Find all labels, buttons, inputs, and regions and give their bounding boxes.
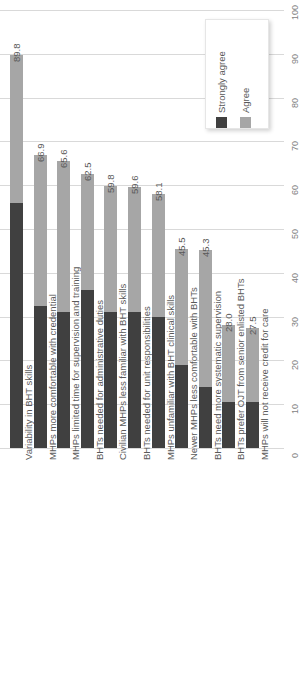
bar-segment-agree	[222, 325, 235, 402]
category-label: MHPs limited time for supervision and tr…	[70, 267, 81, 460]
bar	[175, 249, 188, 448]
bar-segment-strongly-agree	[81, 290, 94, 448]
bar-value-label: 59.8	[105, 175, 116, 194]
bar-segment-strongly-agree	[175, 365, 188, 448]
axis-tick-label: 50	[290, 215, 300, 239]
bar	[81, 174, 94, 448]
bar-value-label: 59.6	[129, 175, 140, 194]
bar-segment-agree	[246, 328, 259, 402]
bar-value-label: 65.6	[58, 149, 69, 168]
bar-segment-strongly-agree	[104, 312, 117, 448]
bar-segment-strongly-agree	[199, 387, 212, 448]
category-label: Variability in BHT skills	[23, 365, 34, 460]
legend-label: Strongly agree	[216, 51, 227, 113]
stacked-bar-chart: 010203040506070809010089.8Variability in…	[0, 0, 308, 676]
bar	[104, 186, 117, 448]
axis-tick-label: 80	[290, 84, 300, 108]
bar	[246, 328, 259, 448]
gridline	[0, 10, 284, 11]
category-label: Civilian MHPs less familiar with BHT ski…	[117, 284, 128, 460]
bar-segment-agree	[34, 155, 47, 306]
category-label: MHPs will not receive credit for care	[259, 308, 270, 460]
bar	[152, 194, 165, 448]
axis-tick-label: 20	[290, 346, 300, 370]
category-label: Newer MHPs less comfortable with BHTs	[188, 287, 199, 460]
bar-segment-agree	[104, 186, 117, 312]
bar-value-label: 45.5	[176, 237, 187, 256]
bar-segment-strongly-agree	[222, 402, 235, 448]
legend-label: Agree	[240, 88, 251, 113]
bar	[10, 55, 23, 448]
axis-tick-label: 40	[290, 259, 300, 283]
bar-value-label: 62.5	[82, 163, 93, 182]
category-label: BHTs needed for administrative duties	[94, 300, 105, 460]
bar-segment-agree	[199, 250, 212, 387]
bar-segment-agree	[175, 249, 188, 365]
axis-tick-label: 30	[290, 303, 300, 327]
legend-swatch	[216, 117, 227, 128]
gridline	[0, 141, 284, 142]
bar	[128, 187, 141, 448]
axis-tick-label: 100	[290, 0, 300, 20]
bar-segment-strongly-agree	[152, 317, 165, 448]
bar	[34, 155, 47, 448]
axis-tick-label: 70	[290, 127, 300, 151]
axis-tick-label: 60	[290, 171, 300, 195]
category-label: MHPs unfamiliar with BHT clinical skills	[165, 295, 176, 460]
bar-segment-strongly-agree	[57, 312, 70, 448]
bar-value-label: 28.0	[223, 314, 234, 333]
legend-swatch	[240, 117, 251, 128]
bar-segment-agree	[81, 174, 94, 290]
bar-segment-agree	[10, 55, 23, 203]
bar-value-label: 66.9	[35, 143, 46, 162]
axis-tick-label: 90	[290, 40, 300, 64]
bar	[199, 250, 212, 448]
bar-value-label: 27.5	[247, 316, 258, 335]
bar-segment-strongly-agree	[128, 312, 141, 448]
bar-value-label: 89.8	[11, 43, 22, 62]
category-label: BHTs needed for unit responsibilities	[141, 306, 152, 460]
category-label: BHTs need more systematic supervision	[212, 291, 223, 460]
bar-value-label: 58.1	[153, 182, 164, 201]
chart-legend: Strongly agreeAgree	[205, 19, 269, 129]
bar	[222, 325, 235, 448]
bar	[57, 161, 70, 448]
axis-tick-label: 10	[290, 390, 300, 414]
bar-segment-agree	[57, 161, 70, 313]
category-label: BHTs prefer OJT from senior enlisted BHT…	[235, 279, 246, 460]
bar-segment-strongly-agree	[10, 203, 23, 448]
bar-segment-strongly-agree	[246, 402, 259, 448]
bar-value-label: 45.3	[200, 238, 211, 257]
bar-segment-agree	[128, 187, 141, 312]
axis-tick-label: 0	[290, 434, 300, 458]
bar-segment-strongly-agree	[34, 306, 47, 448]
category-label: MHPs more comfortable with credential	[47, 294, 58, 460]
bar-segment-agree	[152, 194, 165, 317]
